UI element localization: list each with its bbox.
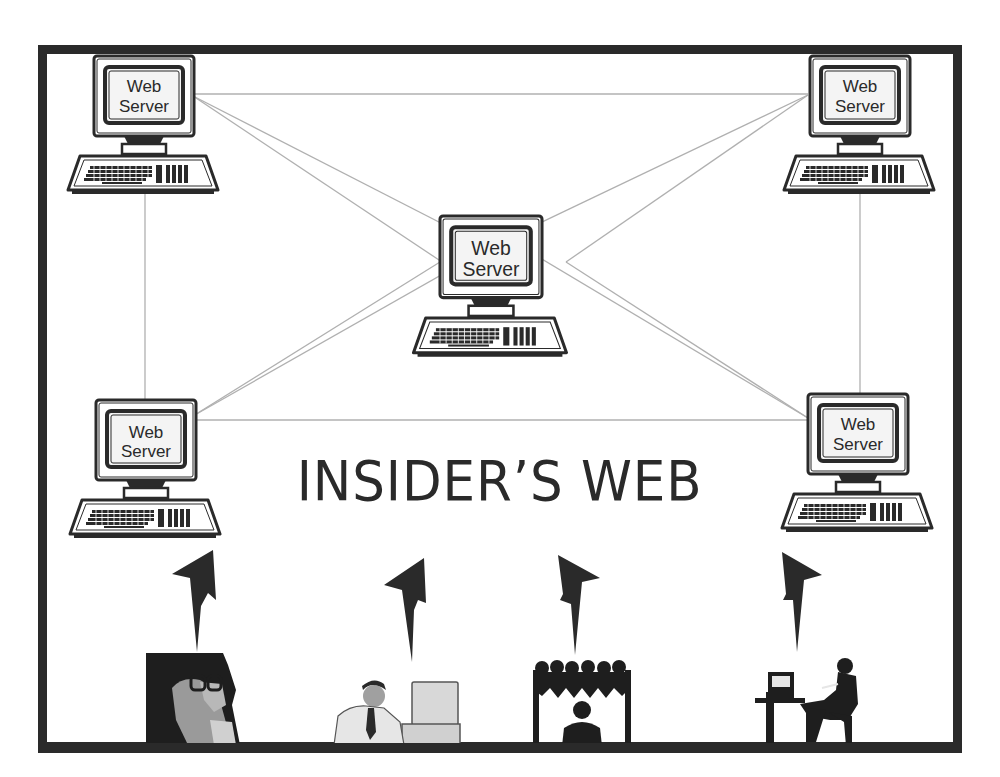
server-label-line1: Web (841, 415, 876, 434)
edge-tr-center-b (566, 95, 808, 262)
server-top-right: Web Server (784, 56, 934, 194)
arrow-up-icon (558, 555, 600, 655)
edge-tl-center-a (193, 96, 442, 262)
edge-tl-center-b (193, 96, 474, 240)
server-label-line2: Server (835, 97, 885, 116)
server-center: Web Server (413, 216, 566, 357)
server-label-line2: Server (462, 258, 520, 280)
diagram-title: INSIDER’S WEB (0, 448, 1000, 513)
network-diagram: Web Server Web Server Web Server Web Ser… (0, 0, 1000, 777)
title-text: INSIDER’S WEB (297, 448, 703, 513)
office-worker-at-computer-icon (334, 680, 460, 745)
arrow-up-icon (782, 552, 822, 652)
person-at-desk-on-phone-icon (755, 658, 858, 746)
arrow-up-icon (384, 558, 426, 662)
server-label-line1: Web (129, 423, 164, 442)
server-label-line1: Web (471, 237, 510, 259)
server-label-line2: Server (119, 97, 169, 116)
server-top-left: Web Server (68, 56, 218, 194)
edge-br-center-a (566, 262, 808, 418)
diagram-canvas: Web Server Web Server Web Server Web Ser… (0, 0, 1000, 777)
server-label-line1: Web (127, 77, 162, 96)
audience-with-speaker-icon (533, 660, 631, 746)
edge-bl-center-a (193, 262, 440, 416)
server-label-line1: Web (843, 77, 878, 96)
frame-bottom-edge (38, 743, 962, 753)
person-on-phone-icon (146, 653, 240, 745)
arrow-up-icon (172, 550, 216, 652)
